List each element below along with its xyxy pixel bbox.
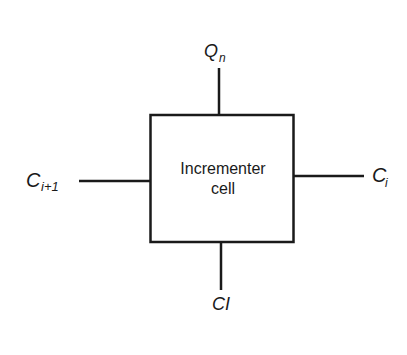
port-top-sub: n	[219, 51, 226, 65]
port-right-sub: i	[385, 176, 388, 190]
port-label-bottom: CI	[212, 294, 230, 314]
incrementer-cell-diagram: Incrementer cell Q n C i+1 C i CI	[0, 0, 407, 355]
port-left-sub: i+1	[41, 179, 59, 194]
port-label-left: C i+1	[26, 169, 59, 194]
port-left-main: C	[26, 169, 41, 191]
block-label-line2: cell	[211, 180, 235, 197]
port-label-top: Q n	[204, 41, 226, 65]
incrementer-cell-block	[151, 115, 294, 242]
port-bottom-main: CI	[212, 294, 230, 314]
port-top-main: Q	[204, 41, 218, 61]
block-label-line1: Incrementer	[180, 160, 266, 177]
port-label-right: C i	[372, 164, 388, 190]
